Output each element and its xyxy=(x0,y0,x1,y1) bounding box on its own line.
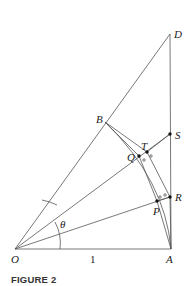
label-T: T xyxy=(141,140,148,152)
right-angle-mark-P xyxy=(159,196,161,198)
label-theta: θ xyxy=(60,218,66,230)
label-S: S xyxy=(175,129,181,141)
segment-OR xyxy=(15,197,170,249)
figure-caption: FIGURE 2 xyxy=(11,274,56,285)
label-O: O xyxy=(11,253,19,265)
point-Q xyxy=(137,154,140,157)
label-D: D xyxy=(173,28,182,40)
label-B: B xyxy=(96,113,103,125)
right-angle-mark-Q xyxy=(143,159,145,161)
label-length-1: 1 xyxy=(90,253,96,265)
label-R: R xyxy=(174,191,182,203)
label-P: P xyxy=(152,205,160,217)
segment-TS xyxy=(147,134,170,152)
point-R xyxy=(168,195,171,198)
right-angle-mark-T xyxy=(150,155,152,157)
label-A: A xyxy=(165,253,173,265)
point-S xyxy=(168,132,171,135)
right-angle-mark-R xyxy=(164,194,166,196)
label-Q: Q xyxy=(127,151,135,163)
figure-diagram: D B S T Q R P θ O 1 A FIGURE 2 xyxy=(0,0,189,286)
point-P xyxy=(155,199,158,202)
